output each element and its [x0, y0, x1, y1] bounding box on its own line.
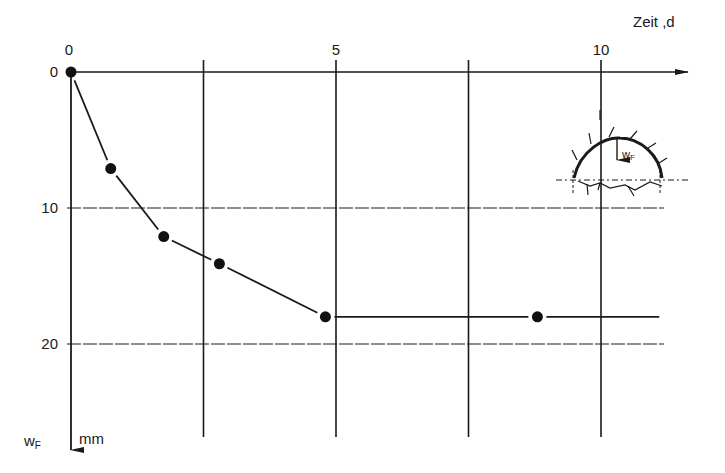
series-line-segment	[116, 176, 158, 230]
inset-label-sub: F	[630, 153, 635, 162]
x-axis-label: Zeit ,d	[633, 13, 675, 30]
series-line-segment	[74, 80, 107, 160]
x-tick-label: 10	[593, 41, 610, 58]
series-line-segment	[227, 268, 317, 313]
series-line-segment	[172, 241, 211, 260]
y-label-sub: F	[35, 440, 41, 451]
data-point	[158, 231, 169, 242]
svg-text:wF: wF	[23, 432, 41, 451]
data-point	[214, 258, 225, 269]
svg-text:wF: wF	[621, 148, 635, 162]
gridlines	[67, 60, 664, 437]
tick-labels: 051001020	[41, 41, 609, 352]
data-series	[66, 67, 660, 323]
tunnel-section-inset: wF	[556, 110, 688, 196]
data-point	[66, 67, 77, 78]
y-label-unit: mm	[79, 430, 104, 447]
axes	[67, 72, 688, 450]
x-tick-label: 5	[332, 41, 340, 58]
y-tick-label: 10	[41, 199, 58, 216]
inset-label-main: w	[621, 148, 630, 160]
y-tick-label: 0	[50, 63, 58, 80]
y-label-main: w	[23, 432, 35, 449]
settlement-chart: 051001020 Zeit ,d wF mm wF	[0, 0, 725, 473]
x-tick-label: 0	[65, 41, 73, 58]
y-axis-label: wF mm	[23, 430, 104, 451]
data-point	[105, 163, 116, 174]
data-point	[320, 311, 331, 322]
y-tick-label: 20	[41, 335, 58, 352]
data-point	[532, 311, 543, 322]
